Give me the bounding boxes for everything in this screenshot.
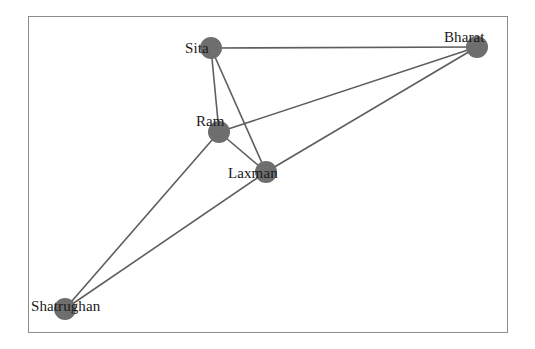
graph-diagram-canvas: SitaBharatRamLaxmanShatrughan <box>0 0 535 349</box>
node-label-shatrughan: Shatrughan <box>31 299 100 314</box>
node-label-ram: Ram <box>196 114 225 129</box>
graph-edge-laxman-bharat <box>266 47 477 172</box>
node-label-laxman: Laxman <box>228 166 278 181</box>
graph-edge-sita-bharat <box>211 47 477 48</box>
graph-edge-ram-bharat <box>219 47 477 132</box>
graph-edge-sita-laxman <box>211 48 266 172</box>
node-label-sita: Sita <box>185 41 209 56</box>
node-label-bharat: Bharat <box>444 30 485 45</box>
